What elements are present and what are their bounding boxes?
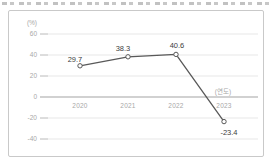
chart-figure: 6040200-20-40(%)(연도)202020212022202329.7… xyxy=(0,0,272,163)
line-chart: 6040200-20-40(%)(연도)202020212022202329.7… xyxy=(9,11,263,156)
y-tick-label: 60 xyxy=(30,30,38,37)
data-point-label: -23.4 xyxy=(220,128,237,137)
data-point-marker xyxy=(78,64,82,68)
data-line xyxy=(80,54,224,121)
y-tick-label: -20 xyxy=(28,114,38,121)
y-axis-unit-label: (%) xyxy=(27,19,37,27)
data-point-marker xyxy=(174,52,178,56)
y-tick-label: 40 xyxy=(30,51,38,58)
data-point-marker xyxy=(222,119,226,123)
clipped-title-strip xyxy=(2,2,270,5)
data-point-label: 29.7 xyxy=(68,55,83,64)
x-tick-label: 2023 xyxy=(216,102,231,109)
chart-panel: 6040200-20-40(%)(연도)202020212022202329.7… xyxy=(8,10,264,157)
y-tick-label: 0 xyxy=(33,93,37,100)
data-point-marker xyxy=(126,55,130,59)
x-axis-unit-label: (연도) xyxy=(215,88,231,96)
x-tick-label: 2021 xyxy=(120,102,135,109)
y-tick-label: -40 xyxy=(28,135,38,142)
data-point-label: 38.3 xyxy=(116,44,131,53)
x-tick-label: 2020 xyxy=(72,102,87,109)
x-tick-label: 2022 xyxy=(168,102,183,109)
y-tick-label: 20 xyxy=(30,72,38,79)
data-point-label: 40.6 xyxy=(170,41,185,50)
